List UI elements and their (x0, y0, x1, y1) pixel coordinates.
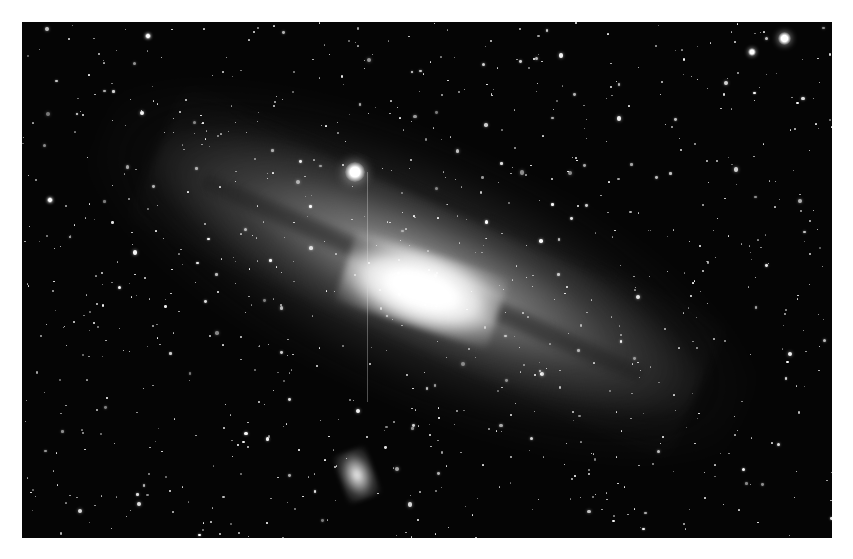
star (209, 146, 211, 148)
star (254, 158, 256, 160)
star (60, 246, 61, 247)
star (185, 99, 186, 100)
star (437, 472, 440, 475)
star (180, 249, 181, 250)
star (564, 293, 566, 295)
star (628, 105, 630, 107)
star (249, 268, 250, 269)
star (119, 328, 120, 329)
star (737, 72, 738, 73)
star (196, 262, 199, 265)
star (655, 45, 657, 47)
star (324, 44, 326, 46)
star (74, 224, 76, 226)
star (707, 88, 708, 89)
star (247, 422, 249, 424)
star (137, 502, 141, 506)
star (398, 259, 400, 261)
star (697, 79, 699, 81)
star (103, 60, 105, 62)
star (235, 171, 237, 173)
star (228, 131, 229, 132)
star (65, 502, 67, 504)
star (541, 61, 542, 62)
star (111, 282, 112, 283)
star (640, 370, 641, 371)
star (88, 74, 90, 76)
star (112, 185, 113, 186)
star (244, 228, 247, 231)
star (98, 53, 100, 55)
star (454, 424, 455, 425)
star (272, 172, 274, 174)
star (252, 235, 253, 236)
star (198, 534, 201, 537)
star (575, 22, 576, 23)
star (745, 482, 748, 485)
star (334, 466, 336, 468)
star (316, 365, 317, 366)
star (536, 91, 538, 93)
star (165, 299, 166, 300)
star (627, 514, 629, 516)
bright-star (345, 162, 366, 183)
star (376, 245, 378, 247)
star (546, 29, 549, 32)
star (754, 33, 755, 34)
star (429, 424, 430, 425)
star (577, 205, 578, 206)
star (612, 236, 614, 238)
star (592, 496, 593, 497)
star (200, 115, 201, 116)
star (826, 480, 827, 481)
star (567, 171, 569, 173)
star (606, 141, 607, 142)
star (266, 522, 268, 524)
star (382, 168, 384, 170)
star (464, 89, 465, 90)
star (497, 67, 498, 68)
star (248, 39, 250, 41)
star (519, 60, 522, 63)
star (823, 339, 826, 342)
star (755, 306, 758, 309)
star (189, 380, 190, 381)
star (763, 31, 765, 33)
star (750, 252, 751, 253)
star (283, 426, 284, 427)
star (640, 527, 642, 529)
star (777, 443, 780, 446)
star (679, 138, 681, 140)
star (125, 125, 126, 126)
star (408, 502, 412, 506)
star (410, 495, 411, 496)
star (697, 418, 698, 419)
star (716, 160, 718, 162)
star (586, 312, 587, 313)
star (35, 496, 37, 498)
star (134, 274, 135, 275)
star (254, 369, 256, 371)
star (753, 156, 754, 157)
star (43, 144, 46, 147)
star (435, 304, 439, 308)
star (618, 83, 621, 86)
star (443, 171, 444, 172)
star (393, 421, 394, 422)
star (94, 94, 96, 96)
star (782, 348, 784, 350)
star (662, 436, 664, 438)
star (131, 296, 133, 298)
star (689, 241, 690, 242)
star (337, 132, 339, 134)
star (78, 509, 82, 513)
star (388, 40, 390, 42)
star (89, 203, 91, 205)
star (59, 379, 61, 381)
star (727, 78, 728, 79)
star (447, 80, 449, 82)
star (193, 121, 196, 124)
star (135, 169, 136, 170)
star (319, 22, 321, 24)
star (512, 167, 513, 168)
